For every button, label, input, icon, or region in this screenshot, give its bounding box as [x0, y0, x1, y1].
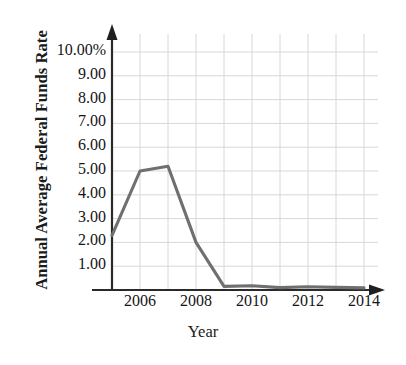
y-tick-label-group: 10.00%9.008.007.006.005.004.003.002.001.…: [0, 0, 106, 365]
y-axis: [107, 24, 118, 290]
y-tick-label: 8.00: [78, 89, 106, 107]
chart-figure: 10.00%9.008.007.006.005.004.003.002.001.…: [0, 0, 406, 365]
data-series-federal-funds-rate: [112, 166, 364, 288]
x-tick-label: 2008: [168, 292, 224, 310]
y-tick-label: 3.00: [78, 208, 106, 226]
y-tick-label: 6.00: [78, 136, 106, 154]
y-tick-label: 5.00: [78, 160, 106, 178]
horizontal-gridlines: [112, 52, 378, 266]
y-tick-label: 4.00: [78, 184, 106, 202]
x-tick-label: 2006: [112, 292, 168, 310]
x-axis-title: Year: [0, 322, 406, 342]
x-tick-label: 2012: [280, 292, 336, 310]
x-tick-label: 2014: [336, 292, 392, 310]
y-tick-label: 9.00: [78, 65, 106, 83]
vertical-gridlines: [140, 34, 364, 290]
x-tick-label: 2010: [224, 292, 280, 310]
y-tick-label: 7.00: [78, 112, 106, 130]
y-tick-label: 2.00: [78, 231, 106, 249]
y-tick-label: 1.00: [78, 255, 106, 273]
y-axis-title: Annual Average Federal Funds Rate: [32, 10, 52, 310]
y-tick-label: 10.00%: [57, 41, 106, 59]
